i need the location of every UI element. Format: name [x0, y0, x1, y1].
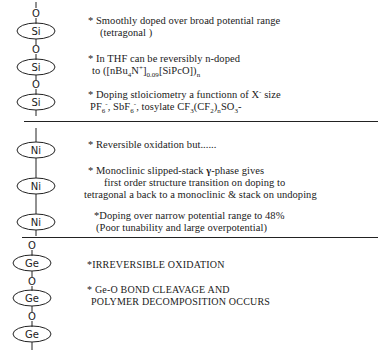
- svg-text:Ge: Ge: [25, 329, 39, 340]
- ge-note-2: * Ge-O BOND CLEAVAGE AND POLYMER DECOMPO…: [87, 284, 270, 308]
- svg-text:Ni: Ni: [31, 181, 41, 192]
- si-atom-label: Si: [31, 26, 40, 37]
- section-divider-si-ni: [24, 121, 378, 122]
- svg-text:O: O: [32, 79, 40, 90]
- svg-text:O: O: [28, 276, 36, 287]
- polymer-comparison-figure: O Si O Si O Si Ni Ni Ni O Ge O Ge O Ge *…: [0, 0, 383, 356]
- si-note-3: * Doping stloiciometry a functionn of X-…: [88, 89, 281, 113]
- ni-note-2: * Monoclinic slipped-stack γ-phase gives…: [88, 165, 317, 201]
- svg-text:O: O: [32, 44, 40, 55]
- svg-text:O: O: [28, 311, 36, 322]
- ni-note-3: *Doping over narrow potential range to 4…: [94, 210, 284, 234]
- si-note-2: * In THF can be reversibly n-doped to ([…: [88, 53, 240, 77]
- si-note-1: * Smoothly doped over broad potential ra…: [88, 15, 280, 39]
- ni-atom-label: Ni: [31, 145, 41, 156]
- ge-note-1: *IRREVERSIBLE OXIDATION: [87, 259, 225, 271]
- section-divider-ni-ge: [22, 237, 378, 238]
- svg-text:O: O: [28, 240, 36, 251]
- svg-text:Si: Si: [31, 97, 40, 108]
- svg-text:Ni: Ni: [31, 217, 41, 228]
- ge-atom-label: Ge: [25, 258, 39, 269]
- svg-text:Si: Si: [31, 62, 40, 73]
- oxygen-bridge-label: O: [32, 8, 40, 19]
- svg-text:Ge: Ge: [25, 293, 39, 304]
- ni-note-1: * Reversible oxidation but......: [88, 139, 216, 151]
